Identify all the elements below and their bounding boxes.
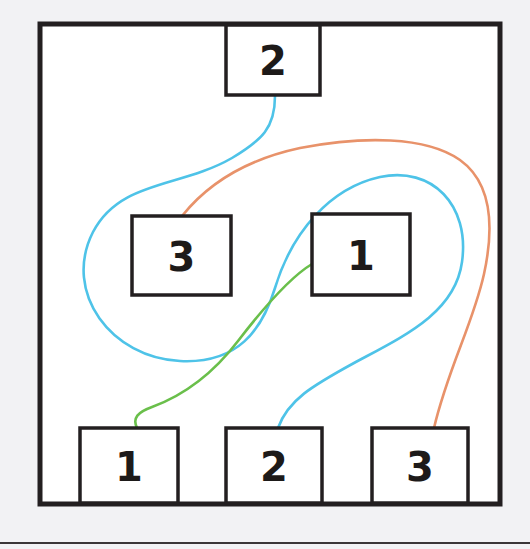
node-box-bottom-3[interactable]: 3 — [372, 428, 468, 503]
node-box-middle-3[interactable]: 3 — [132, 216, 231, 295]
node-box-bottom-2-label: 2 — [260, 444, 288, 490]
node-box-bottom-1[interactable]: 1 — [80, 428, 178, 503]
node-box-top-2-label: 2 — [259, 38, 287, 84]
node-box-bottom-2[interactable]: 2 — [226, 428, 322, 503]
node-box-middle-3-label: 3 — [168, 234, 196, 280]
diagram-canvas: 231123 — [0, 0, 530, 549]
node-box-bottom-3-label: 3 — [406, 444, 434, 490]
node-box-bottom-1-label: 1 — [115, 444, 143, 490]
graph-diagram-svg: 231123 — [0, 0, 530, 549]
node-box-middle-1[interactable]: 1 — [312, 214, 410, 295]
node-box-middle-1-label: 1 — [347, 233, 375, 279]
node-box-top-2[interactable]: 2 — [226, 25, 320, 95]
